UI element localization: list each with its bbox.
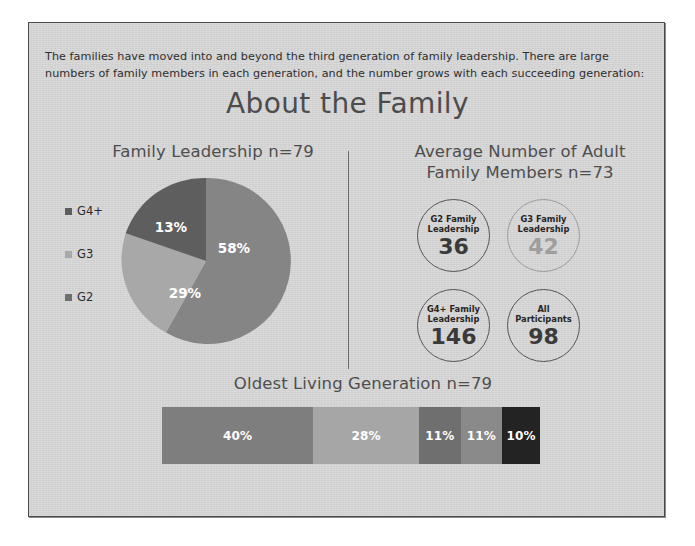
legend-label-g2: G2 <box>77 290 93 304</box>
metric-label-g2-line2: Leadership <box>428 224 480 234</box>
bar-segment-3: 11% <box>419 407 461 464</box>
metric-value-g4plus: 146 <box>431 325 477 348</box>
legend-swatch-icon-g4plus <box>65 208 72 215</box>
metric-circle-g2-family-leadership: G2 Family Leadership 36 <box>417 199 490 272</box>
oldest-living-generation-stacked-bar: 40% 28% 11% 11% 10% <box>162 407 540 464</box>
legend-swatch-icon-g3 <box>65 251 72 258</box>
family-leadership-pie-chart: 58% 29% 13% <box>121 176 291 346</box>
metric-label-g4plus-line1: G4+ Family <box>427 304 480 314</box>
pie-chart-heading: Family Leadership n=79 <box>63 141 363 162</box>
legend-swatch-icon-g2 <box>65 294 72 301</box>
metric-label-g3-line1: G3 Family <box>521 214 567 224</box>
metric-label-g3-line2: Leadership <box>518 224 570 234</box>
metric-value-all-participants: 98 <box>528 325 559 348</box>
bar-segment-2: 28% <box>313 407 419 464</box>
bar-segment-4: 11% <box>461 407 503 464</box>
metric-circle-g4plus-family-leadership: G4+ Family Leadership 146 <box>417 289 490 362</box>
bar-segment-5: 10% <box>502 407 540 464</box>
legend-item-g3: G3 <box>65 247 93 261</box>
metric-circle-g3-family-leadership: G3 Family Leadership 42 <box>507 199 580 272</box>
metric-label-g2: G2 Family Leadership <box>425 214 483 234</box>
intro-paragraph: The families have moved into and beyond … <box>45 48 647 82</box>
metric-label-g2-line1: G2 Family <box>431 214 477 224</box>
legend-item-g4plus: G4+ <box>65 204 103 218</box>
metric-circle-all-participants: All Participants 98 <box>507 289 580 362</box>
circles-heading-line1: Average Number of Adult <box>415 142 626 161</box>
section-divider <box>348 151 349 369</box>
circles-heading-line2: Family Members n=73 <box>426 163 613 182</box>
pie-label-13: 13% <box>155 219 188 235</box>
metric-value-g2: 36 <box>438 235 469 258</box>
metric-label-g4plus-line2: Leadership <box>428 314 480 324</box>
metric-value-g3: 42 <box>528 235 559 258</box>
legend-item-g2: G2 <box>65 290 93 304</box>
infographic-page: The families have moved into and beyond … <box>0 0 695 546</box>
legend-label-g4plus: G4+ <box>77 204 103 218</box>
circles-section-heading: Average Number of Adult Family Members n… <box>377 141 663 183</box>
pie-label-29: 29% <box>169 285 202 301</box>
pie-svg: 58% 29% 13% <box>121 176 291 346</box>
page-title: About the Family <box>29 87 666 120</box>
legend-label-g3: G3 <box>77 247 93 261</box>
bar-segment-1: 40% <box>162 407 313 464</box>
pie-label-58: 58% <box>218 240 251 256</box>
slide-panel: The families have moved into and beyond … <box>28 22 665 517</box>
metric-label-g3: G3 Family Leadership <box>515 214 573 234</box>
bar-chart-heading: Oldest Living Generation n=79 <box>63 373 663 394</box>
metric-label-g4plus: G4+ Family Leadership <box>424 304 483 324</box>
metric-label-all-participants: All Participants <box>508 304 579 324</box>
